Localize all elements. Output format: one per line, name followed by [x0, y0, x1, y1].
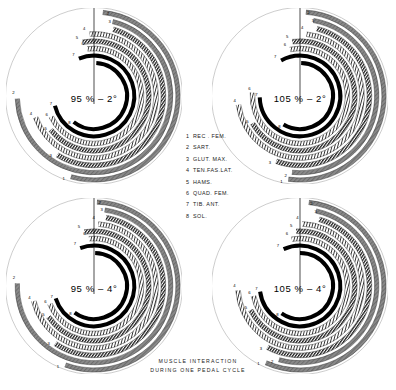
legend-item-label: SART.	[193, 144, 264, 150]
legend-item-2: 2SART.	[186, 144, 264, 155]
arc-end-label: 3	[48, 341, 51, 346]
legend-item-6: 6QUAD. FEM.	[186, 190, 264, 201]
legend-item-5: 5HAMS.	[186, 179, 264, 190]
arc-end-label: 3	[260, 346, 263, 351]
legend-item-1: 1REC . FEM.	[186, 133, 264, 144]
polar-plot-br: 1122334455667788	[212, 198, 388, 374]
legend-item-number: 6	[186, 190, 193, 196]
arc-end-label: 4	[30, 111, 33, 116]
muscle-arc-8	[75, 253, 127, 319]
arc-end-label: 8	[68, 120, 71, 125]
arc-end-label: 5	[76, 35, 79, 40]
arc-end-label: 7	[50, 294, 53, 299]
polar-diagram-bl: 1122334455667788 95 % – 4°	[6, 198, 182, 374]
arc-end-label: 7	[255, 286, 258, 291]
legend-item-number: 3	[186, 156, 193, 162]
arc-end-label: 5	[78, 224, 81, 229]
arc-end-label: 5	[44, 126, 47, 131]
legend: 1REC . FEM.2SART.3GLUT. MAX.4TEN.FAS.LAT…	[186, 133, 264, 224]
arc-end-label: 4	[233, 283, 236, 288]
legend-item-number: 8	[186, 213, 193, 219]
muscle-arc-8	[74, 63, 127, 129]
legend-item-number: 5	[186, 179, 193, 185]
arc-end-label: 7	[277, 243, 280, 248]
polar-plot-bl: 1122334455667788	[6, 198, 182, 374]
arc-end-label: 3	[269, 160, 272, 165]
muscle-arc-4	[36, 34, 157, 158]
arc-end-label: 2	[12, 90, 15, 95]
polar-plot-tl: 1122334455667788	[6, 8, 182, 184]
legend-item-label: TEN.FAS.LAT.	[193, 167, 264, 173]
legend-item-4: 4TEN.FAS.LAT.	[186, 167, 264, 178]
legend-item-label: REC . FEM.	[193, 133, 264, 139]
arc-end-label: 7	[74, 241, 77, 246]
arc-end-label: 4	[28, 295, 31, 300]
arc-end-label: 4	[301, 25, 304, 30]
muscle-arc-4	[34, 224, 156, 348]
arc-end-label: 6	[44, 299, 47, 304]
legend-item-label: HAMS.	[193, 179, 264, 185]
arc-end-label: 7	[255, 92, 258, 97]
legend-item-number: 7	[186, 201, 193, 207]
figure-caption: MUSCLE INTERACTION DURING ONE PEDAL CYCL…	[0, 357, 396, 375]
arc-end-label: 5	[245, 305, 248, 310]
arc-end-label: 3	[108, 19, 111, 24]
arc-end-label: 4	[233, 98, 236, 103]
arc-end-label: 2	[285, 173, 288, 178]
arc-end-label: 6	[284, 42, 287, 47]
legend-item-number: 1	[186, 133, 193, 139]
arc-end-label: 5	[246, 119, 249, 124]
arc-end-label: 8	[276, 312, 279, 317]
arc-end-label: 3	[101, 207, 104, 212]
arc-end-label: 5	[286, 34, 289, 39]
muscle-arc-8	[284, 63, 333, 129]
arc-end-label: 6	[45, 112, 48, 117]
legend-item-number: 4	[186, 167, 193, 173]
muscle-arc-8	[282, 253, 333, 319]
legend-item-label: TIB. ANT.	[193, 201, 264, 207]
muscle-arc-7	[56, 246, 135, 327]
arc-end-label: 6	[286, 231, 289, 236]
legend-item-8: 8SOL.	[186, 213, 264, 224]
arc-end-label: 7	[50, 101, 53, 106]
legend-item-label: SOL.	[193, 213, 264, 219]
arc-end-label: 2	[13, 275, 16, 280]
muscle-arc-7	[55, 56, 134, 137]
caption-line-1: MUSCLE INTERACTION	[0, 357, 396, 366]
arc-end-label: 4	[296, 215, 299, 220]
arc-end-label: 3	[50, 153, 53, 158]
arc-end-label: 5	[290, 223, 293, 228]
legend-item-7: 7TIB. ANT.	[186, 201, 264, 212]
polar-diagram-br: 1122334455667788 105 % – 4°	[212, 198, 388, 374]
arc-end-label: 8	[69, 311, 72, 316]
legend-item-label: QUAD. FEM.	[193, 190, 264, 196]
polar-diagram-tl: 1122334455667788 95 % – 2°	[6, 8, 182, 184]
arc-end-label: 7	[274, 54, 277, 59]
arc-end-label: 7	[72, 52, 75, 57]
arc-end-label: 4	[83, 26, 86, 31]
legend-item-3: 3GLUT. MAX.	[186, 156, 264, 167]
arc-end-label: 6	[248, 86, 251, 91]
caption-line-2: DURING ONE PEDAL CYCLE	[0, 366, 396, 375]
arc-end-label: 8	[278, 124, 281, 129]
arc-end-label: 1	[62, 176, 65, 181]
arc-end-label: 1	[280, 179, 283, 184]
legend-item-number: 2	[186, 144, 193, 150]
arc-end-label: 5	[42, 312, 45, 317]
figure-canvas: 1122334455667788 95 % – 2° 1122334455667…	[0, 0, 396, 390]
legend-item-label: GLUT. MAX.	[193, 156, 264, 162]
arc-end-label: 6	[248, 290, 251, 295]
